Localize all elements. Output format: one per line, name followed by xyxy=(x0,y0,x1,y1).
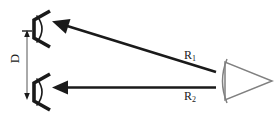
range-arrow-r1-head xyxy=(52,19,71,34)
diagram-canvas xyxy=(0,0,278,118)
radar-antenna xyxy=(223,59,273,103)
label-r2: R2 xyxy=(184,90,196,102)
label-r1-subscript: 1 xyxy=(192,54,196,63)
radar-range-diagram: R1 R2 D xyxy=(0,0,278,118)
corner-reflector-top xyxy=(34,11,50,47)
antenna-triangle xyxy=(225,62,272,100)
label-r2-text: R xyxy=(184,89,192,103)
corner-reflector-bottom xyxy=(34,74,50,110)
label-r2-subscript: 2 xyxy=(192,95,196,104)
label-d: D xyxy=(8,54,21,63)
label-r1-text: R xyxy=(184,48,192,62)
dimension-line-d xyxy=(22,30,32,100)
range-arrow-r1 xyxy=(52,19,216,72)
label-r1: R1 xyxy=(184,49,196,61)
dimension-d-arrowhead-bottom xyxy=(24,93,30,100)
range-arrow-r2-head xyxy=(52,81,68,95)
